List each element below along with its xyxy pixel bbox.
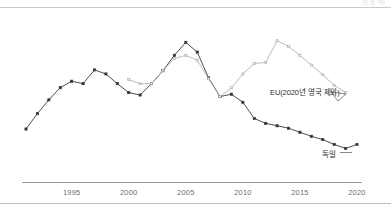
data-point-marker [185, 41, 187, 43]
data-point-marker [288, 45, 290, 47]
data-point-marker [162, 70, 164, 72]
data-point-marker [71, 80, 73, 82]
data-point-marker [322, 138, 324, 140]
chart-figure: (단위: %) 199520002005201020152020 EU(2020… [0, 0, 391, 210]
data-point-marker [208, 78, 210, 80]
data-point-marker [345, 92, 347, 94]
data-point-marker [59, 87, 61, 89]
data-point-marker [253, 62, 255, 64]
x-tick-label-2000: 2000 [120, 188, 138, 197]
x-tick-label-2005: 2005 [177, 188, 195, 197]
data-point-marker [276, 40, 278, 42]
data-point-marker [265, 62, 267, 64]
data-point-marker [299, 131, 301, 133]
data-point-marker [185, 54, 187, 56]
data-point-marker [173, 58, 175, 60]
data-point-marker [287, 127, 289, 129]
data-point-marker [344, 147, 346, 149]
data-point-marker [82, 83, 84, 85]
data-point-marker [173, 54, 175, 56]
data-point-marker [36, 113, 38, 115]
x-tick-label-2020: 2020 [348, 188, 366, 197]
data-point-marker [128, 91, 130, 93]
data-point-marker [139, 83, 141, 85]
data-point-marker [230, 87, 232, 89]
x-tick-label-2010: 2010 [234, 188, 252, 197]
data-point-marker [253, 117, 255, 119]
x-tick-label-1995: 1995 [63, 188, 81, 197]
data-point-marker [93, 69, 95, 71]
data-point-marker [48, 99, 50, 101]
data-point-marker [310, 135, 312, 137]
data-point-marker [242, 101, 244, 103]
data-point-marker [219, 96, 221, 98]
data-point-marker [265, 122, 267, 124]
data-point-marker [299, 54, 301, 56]
data-point-marker [276, 125, 278, 127]
data-point-marker [230, 93, 232, 95]
data-point-marker [116, 83, 118, 85]
series-label-germany: 독일 [322, 148, 336, 159]
data-point-marker [196, 59, 198, 61]
series-label-eu: EU(2020년 영국 제외) [270, 86, 340, 97]
data-point-marker [322, 74, 324, 76]
data-point-marker [310, 64, 312, 66]
line-chart-plot [0, 0, 391, 210]
data-point-marker [139, 94, 141, 96]
data-point-marker [333, 143, 335, 145]
data-point-marker [151, 83, 153, 85]
data-point-marker [356, 143, 358, 145]
x-tick-label-2015: 2015 [291, 188, 309, 197]
data-point-marker [105, 73, 107, 75]
data-point-marker [128, 79, 130, 81]
data-point-marker [196, 51, 198, 53]
data-point-marker [242, 73, 244, 75]
data-point-marker [25, 128, 27, 130]
